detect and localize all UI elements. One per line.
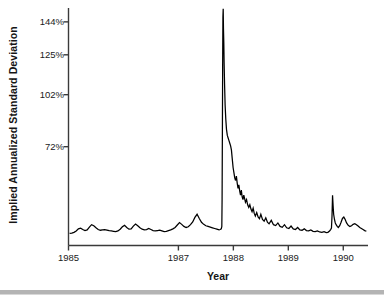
x-tick-label-1985: 1985 [47, 252, 91, 263]
x-tick-label-1988: 1988 [211, 252, 255, 263]
footer-rule-shadow [0, 294, 384, 295]
data-series-group [70, 9, 367, 233]
axis-ticks [64, 22, 344, 251]
chart-figure: Implied Annualized Standard Deviation 14… [0, 0, 384, 298]
data-line-0 [70, 9, 367, 233]
axes-lines [69, 8, 369, 246]
x-axis-title: Year [68, 270, 368, 282]
x-tick-label-1989: 1989 [266, 252, 310, 263]
x-tick-label-1990: 1990 [321, 252, 365, 263]
x-axis-tick-labels: 19851987198819891990 [0, 252, 384, 266]
x-tick-label-1987: 1987 [156, 252, 200, 263]
